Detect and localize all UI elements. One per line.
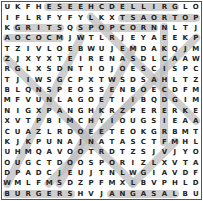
grid-cell[interactable]: S	[149, 116, 159, 126]
grid-cell[interactable]: Z	[138, 158, 148, 168]
grid-cell[interactable]: M	[128, 43, 138, 53]
grid-cell[interactable]: T	[117, 147, 127, 157]
grid-cell[interactable]: J	[12, 75, 22, 85]
grid-cell[interactable]: A	[117, 137, 127, 147]
grid-cell[interactable]: E	[75, 2, 85, 12]
grid-cell[interactable]: B	[138, 95, 148, 105]
grid-cell[interactable]: I	[12, 106, 22, 116]
grid-cell[interactable]: K	[159, 43, 169, 53]
grid-cell[interactable]: X	[159, 158, 169, 168]
grid-cell[interactable]: O	[96, 23, 106, 33]
grid-cell[interactable]: R	[107, 106, 117, 116]
grid-cell[interactable]: O	[2, 158, 12, 168]
grid-cell[interactable]: U	[2, 2, 12, 12]
grid-cell[interactable]: L	[170, 75, 180, 85]
grid-cell[interactable]: D	[107, 147, 117, 157]
grid-cell[interactable]: R	[54, 189, 64, 199]
grid-cell[interactable]: A	[138, 12, 148, 22]
grid-cell[interactable]: T	[54, 54, 64, 64]
grid-cell[interactable]: G	[149, 126, 159, 136]
grid-cell[interactable]: L	[149, 54, 159, 64]
grid-cell[interactable]: H	[75, 189, 85, 199]
grid-cell[interactable]: T	[23, 116, 33, 126]
grid-cell[interactable]: E	[149, 85, 159, 95]
grid-cell[interactable]: J	[65, 33, 75, 43]
grid-cell[interactable]: D	[128, 75, 138, 85]
grid-cell[interactable]: S	[128, 12, 138, 22]
grid-cell[interactable]: E	[128, 33, 138, 43]
grid-cell[interactable]: U	[44, 137, 54, 147]
grid-cell[interactable]: X	[33, 106, 43, 116]
grid-cell[interactable]: N	[159, 23, 169, 33]
grid-cell[interactable]: I	[2, 12, 12, 22]
grid-cell[interactable]: K	[12, 2, 22, 12]
grid-cell[interactable]: C	[159, 54, 169, 64]
grid-cell[interactable]: R	[96, 147, 106, 157]
grid-cell[interactable]: I	[33, 23, 43, 33]
grid-cell[interactable]: E	[117, 2, 127, 12]
grid-cell[interactable]: T	[180, 158, 190, 168]
grid-cell[interactable]: F	[191, 168, 201, 178]
grid-cell[interactable]: O	[75, 126, 85, 136]
grid-cell[interactable]: O	[191, 2, 201, 12]
grid-cell[interactable]: D	[191, 178, 201, 188]
grid-cell[interactable]: P	[86, 23, 96, 33]
grid-cell[interactable]: T	[44, 23, 54, 33]
grid-cell[interactable]: O	[75, 158, 85, 168]
grid-cell[interactable]: O	[191, 147, 201, 157]
grid-cell[interactable]: S	[75, 23, 85, 33]
grid-cell[interactable]: V	[33, 43, 43, 53]
grid-cell[interactable]: L	[191, 137, 201, 147]
grid-cell[interactable]: U	[33, 95, 43, 105]
grid-cell[interactable]: N	[33, 85, 43, 95]
grid-cell[interactable]: E	[86, 126, 96, 136]
grid-cell[interactable]: T	[117, 12, 127, 22]
grid-cell[interactable]: V	[149, 178, 159, 188]
grid-cell[interactable]: P	[180, 64, 190, 74]
grid-cell[interactable]: I	[180, 95, 190, 105]
grid-cell[interactable]: N	[107, 54, 117, 64]
grid-cell[interactable]: U	[128, 116, 138, 126]
grid-cell[interactable]: C	[117, 23, 127, 33]
grid-cell[interactable]: N	[65, 106, 75, 116]
grid-cell[interactable]: O	[12, 33, 22, 43]
grid-cell[interactable]: I	[86, 64, 96, 74]
grid-cell[interactable]: H	[159, 75, 169, 85]
grid-cell[interactable]: T	[180, 75, 190, 85]
grid-cell[interactable]: L	[180, 178, 190, 188]
grid-cell[interactable]: I	[128, 158, 138, 168]
grid-cell[interactable]: U	[75, 168, 85, 178]
grid-cell[interactable]: L	[54, 95, 64, 105]
grid-cell[interactable]: A	[149, 75, 159, 85]
grid-cell[interactable]: E	[170, 116, 180, 126]
grid-cell[interactable]: A	[138, 189, 148, 199]
grid-cell[interactable]: T	[96, 75, 106, 85]
grid-cell[interactable]: T	[44, 158, 54, 168]
grid-cell[interactable]: G	[23, 158, 33, 168]
grid-cell[interactable]: U	[191, 189, 201, 199]
grid-cell[interactable]: A	[149, 43, 159, 53]
grid-cell[interactable]: Z	[191, 75, 201, 85]
grid-cell[interactable]: S	[138, 75, 148, 85]
grid-cell[interactable]: H	[12, 147, 22, 157]
grid-cell[interactable]: P	[33, 137, 43, 147]
grid-cell[interactable]: Z	[12, 43, 22, 53]
grid-cell[interactable]: L	[96, 33, 106, 43]
grid-cell[interactable]: A	[107, 189, 117, 199]
grid-cell[interactable]: J	[96, 189, 106, 199]
grid-cell[interactable]: N	[2, 106, 12, 116]
grid-cell[interactable]: E	[65, 168, 75, 178]
grid-cell[interactable]: A	[191, 158, 201, 168]
grid-cell[interactable]: E	[107, 85, 117, 95]
grid-cell[interactable]: E	[170, 33, 180, 43]
grid-cell[interactable]: O	[75, 85, 85, 95]
grid-cell[interactable]: L	[138, 2, 148, 12]
grid-cell[interactable]: M	[191, 95, 201, 105]
grid-cell[interactable]: T	[180, 23, 190, 33]
grid-cell[interactable]: T	[107, 95, 117, 105]
grid-cell[interactable]: M	[23, 147, 33, 157]
grid-cell[interactable]: O	[180, 12, 190, 22]
grid-cell[interactable]: E	[117, 126, 127, 136]
grid-cell[interactable]: M	[2, 95, 12, 105]
grid-cell[interactable]: X	[107, 12, 117, 22]
